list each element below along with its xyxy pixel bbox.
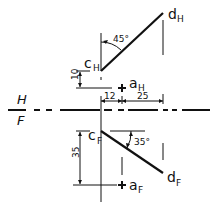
svg-text:d: d <box>168 6 177 22</box>
dim-12: 12 <box>104 91 115 101</box>
svg-text:F: F <box>97 136 102 146</box>
label-a-h: a H <box>129 75 145 93</box>
svg-text:H: H <box>138 83 145 93</box>
svg-text:c: c <box>84 55 92 71</box>
dim-35: 35 <box>71 147 81 158</box>
orthographic-drawing: H F 45° 10 12 25 c H d H <box>0 0 214 202</box>
label-d-h: d H <box>168 6 184 24</box>
svg-text:d: d <box>167 169 176 185</box>
svg-text:H: H <box>93 63 100 73</box>
label-d-f: d F <box>167 169 181 188</box>
fold-label-h: H <box>17 92 27 107</box>
svg-text:c: c <box>88 127 96 143</box>
angle-label-45: 45° <box>113 34 129 44</box>
label-a-f: a F <box>129 177 143 195</box>
label-c-h: c H <box>84 55 100 73</box>
svg-text:a: a <box>129 75 138 91</box>
svg-text:F: F <box>176 178 181 188</box>
dim-10: 10 <box>70 68 80 80</box>
angle-label-35: 35° <box>134 137 150 147</box>
fold-label-f: F <box>17 113 25 128</box>
svg-text:a: a <box>129 177 138 193</box>
line-cd-top <box>101 13 163 71</box>
label-c-f: c F <box>88 127 102 146</box>
line-cd-front <box>101 131 163 173</box>
svg-text:F: F <box>138 185 143 195</box>
svg-text:H: H <box>177 14 184 24</box>
